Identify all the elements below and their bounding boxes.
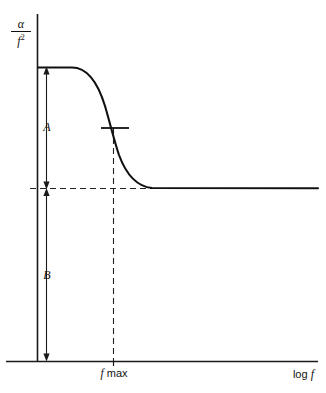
- relaxation-absorption-chart: α f2 A B f max log f: [0, 0, 326, 393]
- baseline-b-arrow-head-down: [43, 354, 49, 362]
- y-axis-label-denominator: f2: [6, 32, 36, 47]
- y-axis-label-numerator: α: [6, 18, 36, 31]
- amplitude-a-label: A: [39, 121, 55, 133]
- baseline-b-arrow-head-up: [43, 188, 49, 196]
- y-axis-label: α f2: [6, 18, 36, 47]
- baseline-b-label: B: [39, 269, 55, 281]
- x-axis-label: log f: [258, 368, 314, 381]
- chart-plot-area: [0, 0, 326, 393]
- fmax-tick-label: f max: [88, 368, 140, 380]
- absorption-curve: [38, 68, 318, 189]
